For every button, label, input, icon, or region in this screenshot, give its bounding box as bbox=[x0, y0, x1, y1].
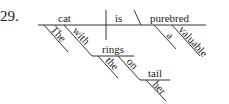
word-with: with bbox=[71, 24, 93, 47]
word-a: a bbox=[165, 29, 177, 41]
word-is: is bbox=[115, 12, 122, 24]
predicate-divider bbox=[134, 10, 141, 25]
word-purebred: purebred bbox=[150, 12, 190, 24]
word-on: on bbox=[125, 55, 142, 72]
word-cat: cat bbox=[58, 12, 71, 24]
sentence-diagram: cat is purebred The with rings the on ta… bbox=[0, 0, 229, 104]
word-valuable: valuable bbox=[177, 23, 211, 59]
word-rings: rings bbox=[102, 43, 124, 55]
word-her: her bbox=[151, 78, 170, 97]
word-tail: tail bbox=[148, 67, 162, 79]
